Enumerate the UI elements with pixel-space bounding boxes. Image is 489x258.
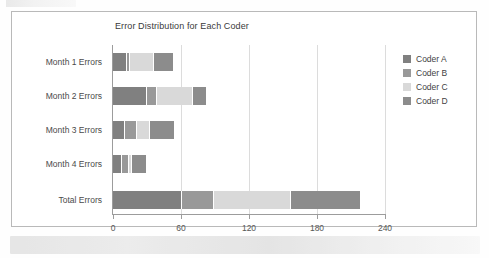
bar-segment-coder-a <box>113 53 127 71</box>
x-tick <box>385 214 386 219</box>
legend-swatch-icon <box>403 55 411 63</box>
bar-segment-coder-b <box>122 155 129 173</box>
legend-label: Coder D <box>416 96 448 106</box>
category-label: Month 1 Errors <box>46 53 102 71</box>
gridline <box>249 45 250 214</box>
x-tick <box>317 214 318 219</box>
chart-title: Error Distribution for Each Coder <box>115 21 249 31</box>
x-tick <box>113 214 114 219</box>
scan-artifact-top <box>6 0 76 7</box>
x-tick-label: 0 <box>111 223 116 233</box>
legend-swatch-icon <box>403 69 411 77</box>
gridline <box>317 45 318 214</box>
figure-caption <box>10 236 480 254</box>
legend-label: Coder C <box>416 82 448 92</box>
legend-label: Coder B <box>416 68 447 78</box>
bar-segment-coder-c <box>214 191 291 209</box>
legend-item[interactable]: Coder D <box>403 94 483 107</box>
x-tick-label: 120 <box>242 223 256 233</box>
legend-item[interactable]: Coder A <box>403 52 483 65</box>
x-tick-label: 60 <box>176 223 185 233</box>
bar-segment-coder-a <box>113 121 125 139</box>
bar-segment-coder-d <box>193 87 205 105</box>
bar-row: Month 4 Errors <box>113 155 146 173</box>
legend-item[interactable]: Coder B <box>403 66 483 79</box>
x-tick <box>249 214 250 219</box>
bar-segment-coder-b <box>147 87 157 105</box>
category-label: Total Errors <box>59 191 102 209</box>
gridline <box>181 45 182 214</box>
bar-segment-coder-b <box>182 191 214 209</box>
bar-segment-coder-b <box>125 121 136 139</box>
bar-segment-coder-d <box>291 191 360 209</box>
bar-row: Total Errors <box>113 191 360 209</box>
bar-segment-coder-c <box>130 53 154 71</box>
bar-segment-coder-c <box>157 87 193 105</box>
legend-item[interactable]: Coder C <box>403 80 483 93</box>
legend-swatch-icon <box>403 97 411 105</box>
category-label: Month 2 Errors <box>46 87 102 105</box>
x-tick <box>181 214 182 219</box>
bar-row: Month 1 Errors <box>113 53 173 71</box>
bar-segment-coder-a <box>113 155 122 173</box>
legend-swatch-icon <box>403 83 411 91</box>
bar-row: Month 2 Errors <box>113 87 206 105</box>
x-tick-label: 240 <box>378 223 392 233</box>
gridline <box>385 45 386 214</box>
legend-label: Coder A <box>416 54 447 64</box>
bar-segment-coder-d <box>154 53 173 71</box>
page-background: Error Distribution for Each Coder 060120… <box>0 0 489 258</box>
chart-frame: Error Distribution for Each Coder 060120… <box>11 11 477 227</box>
bar-segment-coder-a <box>113 191 182 209</box>
plot-area: 060120180240 Month 1 ErrorsMonth 2 Error… <box>113 45 385 214</box>
category-label: Month 4 Errors <box>46 155 102 173</box>
bar-segment-coder-d <box>132 155 146 173</box>
bar-segment-coder-c <box>137 121 151 139</box>
x-tick-label: 180 <box>310 223 324 233</box>
bar-row: Month 3 Errors <box>113 121 174 139</box>
bar-segment-coder-d <box>150 121 174 139</box>
category-label: Month 3 Errors <box>46 121 102 139</box>
chart-legend: Coder ACoder BCoder CCoder D <box>403 52 483 108</box>
bar-segment-coder-a <box>113 87 147 105</box>
